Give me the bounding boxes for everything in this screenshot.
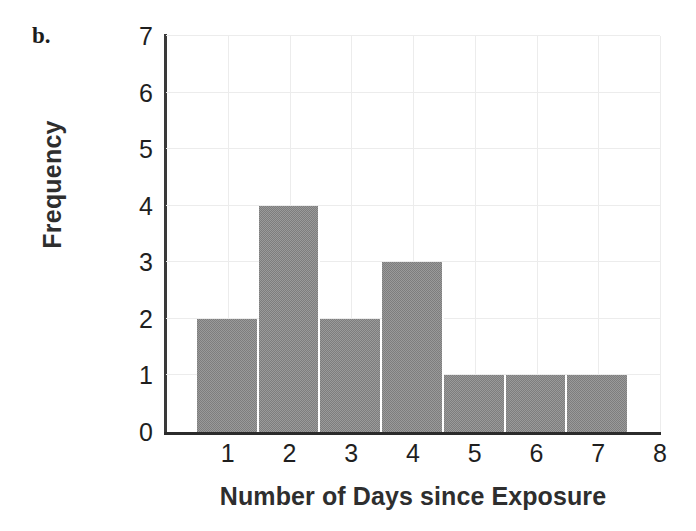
histogram-bar [567,375,629,432]
panel-letter-label: b. [32,24,51,47]
histogram-bar [320,319,382,432]
gridline-vertical [598,36,599,432]
gridline-vertical [660,36,661,432]
x-tick-label: 8 [653,441,667,466]
x-tick-label: 6 [530,441,544,466]
y-tick-label: 6 [139,80,153,105]
y-tick-label: 0 [139,420,153,445]
y-tick-label: 4 [139,193,153,218]
x-tick-label: 2 [283,441,297,466]
x-tick-label: 4 [406,441,420,466]
y-tick-label: 7 [139,24,153,49]
histogram-plot-area: 01234567 12345678 [166,36,660,432]
x-tick-label: 3 [344,441,358,466]
x-axis-line [164,432,661,435]
y-tick-label: 5 [139,137,153,162]
histogram-bar [444,375,506,432]
y-axis-title: Frequency [38,95,67,275]
gridline-vertical [475,36,476,432]
y-tick-label: 1 [139,363,153,388]
x-tick-label: 7 [591,441,605,466]
histogram-bar [197,319,259,432]
y-tick-label: 2 [139,306,153,331]
figure-panel: b. Frequency 01234567 12345678 Number of… [0,0,696,531]
gridline-vertical [537,36,538,432]
x-tick-label: 1 [221,441,235,466]
histogram-bar [259,206,321,432]
x-axis-title: Number of Days since Exposure [166,482,660,511]
y-tick-label: 3 [139,250,153,275]
histogram-bar [506,375,568,432]
x-tick-label: 5 [468,441,482,466]
histogram-bar [382,262,444,432]
